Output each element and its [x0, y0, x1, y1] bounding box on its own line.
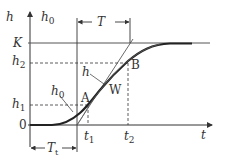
point-w-label: W: [109, 83, 122, 97]
origin-label: 0: [19, 118, 27, 132]
t1-label: t1: [84, 129, 95, 145]
tt-interval-label: Tt: [47, 141, 59, 157]
h2-label: h2: [12, 54, 25, 70]
h0-curve-label: h0: [51, 84, 65, 100]
h-tangent-label: h: [82, 65, 90, 79]
h1-label: h1: [12, 97, 25, 113]
k-label: K: [12, 36, 23, 50]
t2-label: t2: [124, 129, 135, 145]
point-b-label: B: [131, 58, 140, 72]
h0-top-label: h0: [41, 10, 55, 26]
x-axis-label: t: [201, 128, 206, 142]
point-a-label: A: [80, 91, 90, 105]
h-leader-line: [90, 74, 104, 84]
step-response-diagram: h h0 T K h2 h1 0 h h0 A B W t1 t2 t Tt: [0, 0, 225, 160]
y-axis-label: h: [6, 10, 14, 24]
t-interval-label: T: [97, 15, 106, 29]
